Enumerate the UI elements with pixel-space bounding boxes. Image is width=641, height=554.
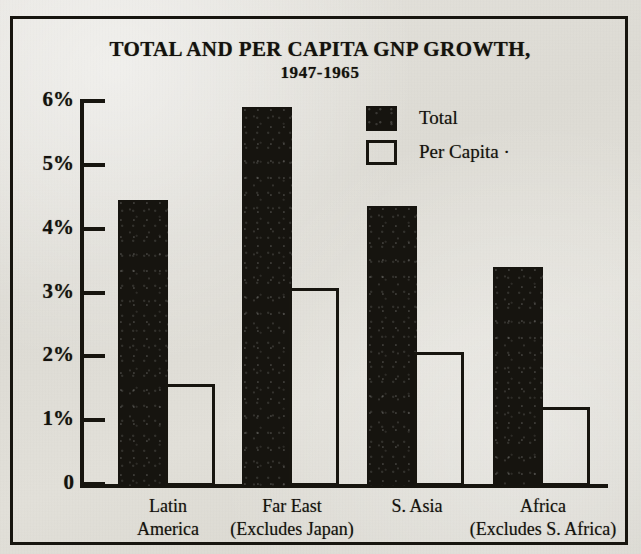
chart-title: TOTAL AND PER CAPITA GNP GROWTH,	[60, 36, 580, 62]
legend-swatch-per-capita-icon	[366, 140, 397, 165]
chart-subtitle: 1947-1965	[60, 62, 580, 84]
legend-label-per-capita: Per Capita ·	[419, 138, 510, 166]
legend-label-total: Total	[419, 104, 458, 132]
chart-title-block: TOTAL AND PER CAPITA GNP GROWTH, 1947-19…	[60, 36, 580, 84]
chart-legend: Total Per Capita ·	[366, 104, 566, 172]
legend-swatch-total-icon	[366, 106, 397, 131]
legend-item-total: Total	[366, 104, 566, 138]
chart-border-frame	[10, 16, 628, 545]
legend-item-per-capita: Per Capita ·	[366, 138, 566, 172]
